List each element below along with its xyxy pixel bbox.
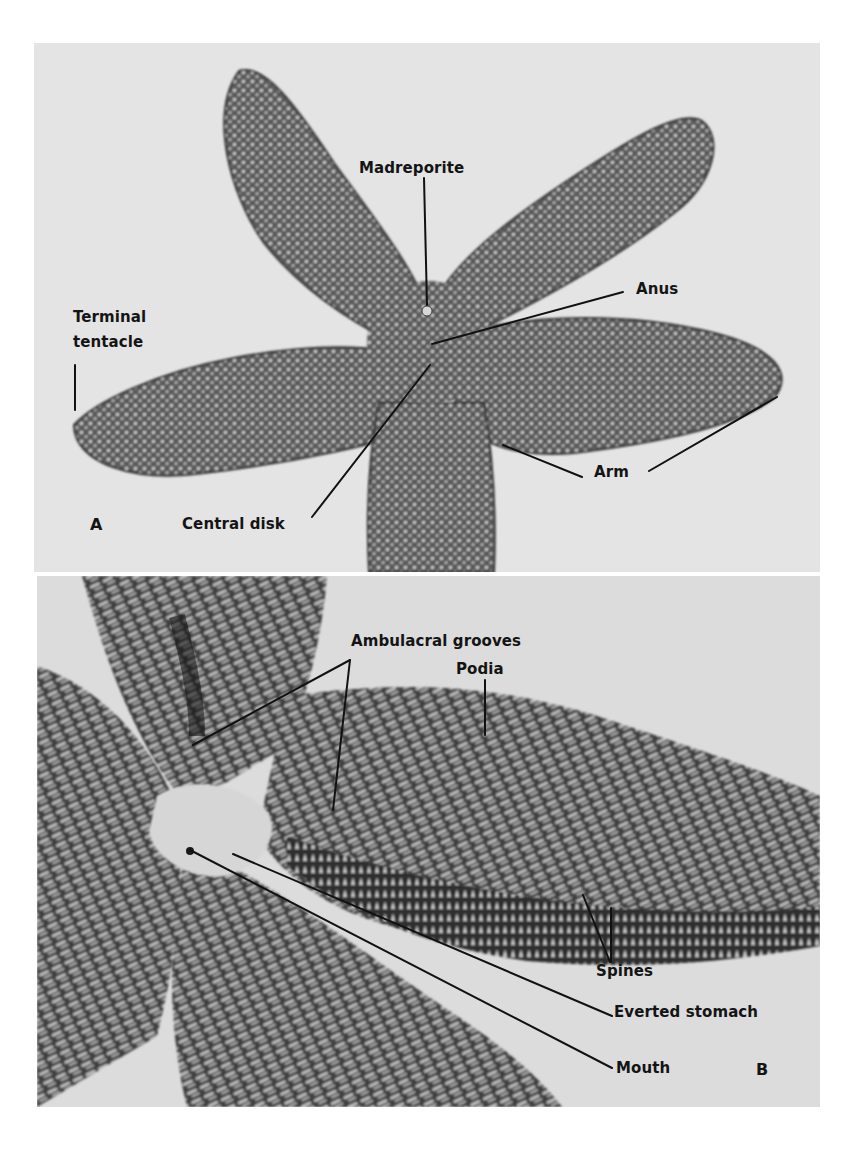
label-arm: Arm (594, 464, 629, 481)
sea-star-figure: Madreporite Anus Terminal tentacle Arm C… (0, 0, 857, 1157)
label-anus: Anus (636, 281, 678, 298)
label-ambulacral-grooves: Ambulacral grooves (351, 633, 521, 650)
label-podia: Podia (456, 661, 504, 678)
label-madreporite: Madreporite (359, 160, 464, 177)
panel-a-aboral-photo (34, 43, 820, 572)
panel-b-oral-photo (37, 576, 820, 1107)
sea-star-aboral-illustration (34, 43, 820, 572)
label-everted-stomach: Everted stomach (614, 1004, 758, 1021)
label-central-disk: Central disk (182, 516, 285, 533)
panel-letter-a: A (90, 515, 102, 534)
label-terminal-tentacle: Terminal tentacle (73, 305, 146, 355)
sea-star-oral-illustration (37, 576, 820, 1107)
panel-letter-b: B (756, 1060, 768, 1079)
label-mouth: Mouth (616, 1060, 670, 1077)
label-spines: Spines (596, 963, 653, 980)
